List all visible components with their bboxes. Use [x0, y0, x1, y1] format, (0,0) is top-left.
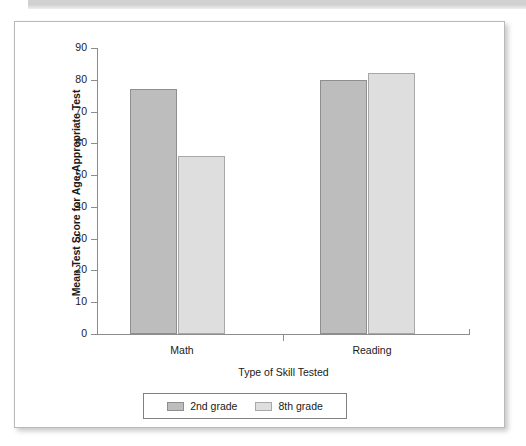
figure-card: Mean Test Score for Age-Appropriate Test…	[14, 21, 505, 428]
bar-reading-8th-grade	[368, 73, 415, 334]
bar-reading-2nd-grade	[320, 80, 367, 334]
legend-label: 2nd grade	[190, 400, 237, 412]
y-axis-tick-label: 50	[47, 169, 87, 180]
x-axis-title: Type of Skill Tested	[97, 366, 470, 378]
y-axis-tick	[91, 239, 97, 240]
x-axis-label-math: Math	[112, 344, 252, 356]
y-axis-tick	[91, 175, 97, 176]
x-axis-category-divider-tick	[283, 335, 284, 341]
legend-label: 8th grade	[278, 400, 322, 412]
y-axis-tick	[91, 270, 97, 271]
y-axis-line	[97, 48, 98, 335]
y-axis-tick-label: 70	[47, 106, 87, 117]
bar-math-2nd-grade	[130, 89, 177, 334]
y-axis-tick-label: 0	[47, 328, 87, 339]
y-axis-tick-label: 10	[47, 296, 87, 307]
legend-swatch-icon	[255, 402, 272, 411]
bar-chart-plot: Mean Test Score for Age-Appropriate Test…	[15, 22, 506, 429]
bar-math-8th-grade	[178, 156, 225, 334]
y-axis-tick	[91, 48, 97, 49]
legend-entry-2nd-grade: 2nd grade	[167, 400, 237, 412]
y-axis-tick	[91, 334, 97, 335]
scanned-page-banner-edge	[0, 0, 28, 9]
legend-entry-8th-grade: 8th grade	[255, 400, 322, 412]
y-axis-tick	[91, 302, 97, 303]
y-axis-tick	[91, 143, 97, 144]
y-axis-tick	[91, 112, 97, 113]
x-axis-right-cap	[469, 329, 470, 335]
scanned-page-banner	[28, 0, 526, 9]
y-axis-tick	[91, 80, 97, 81]
chart-legend: 2nd grade8th grade	[143, 393, 347, 419]
y-axis-tick-label: 30	[47, 233, 87, 244]
legend-swatch-icon	[167, 402, 184, 411]
y-axis-tick-label: 20	[47, 264, 87, 275]
y-axis-tick-label: 90	[47, 42, 87, 53]
y-axis-tick-label: 40	[47, 201, 87, 212]
y-axis-tick-label: 60	[47, 137, 87, 148]
y-axis-tick	[91, 207, 97, 208]
x-axis-label-reading: Reading	[302, 344, 442, 356]
y-axis-tick-label: 80	[47, 74, 87, 85]
